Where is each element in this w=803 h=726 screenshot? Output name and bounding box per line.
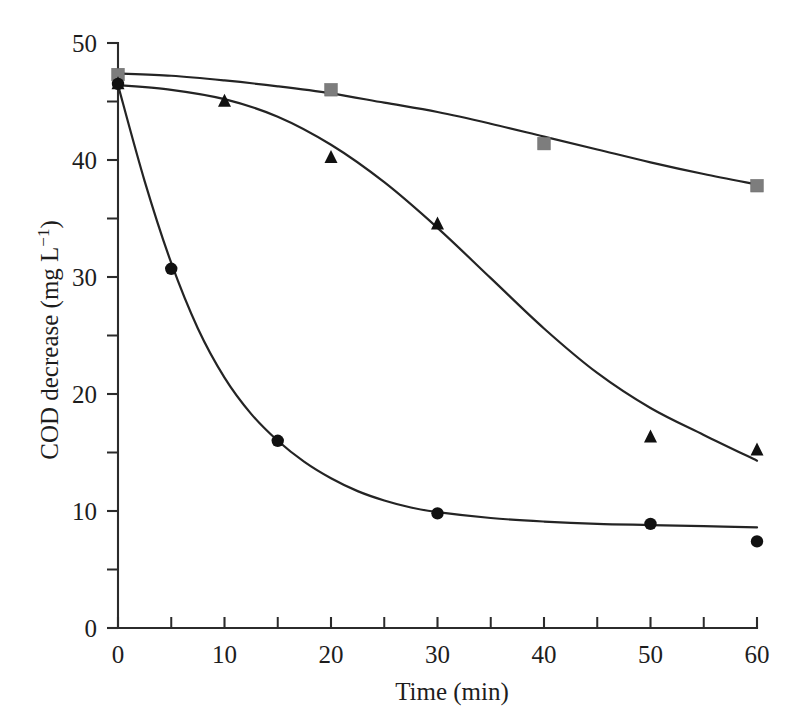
x-tick-label: 0 (112, 641, 125, 668)
y-tick-label: 30 (72, 264, 97, 291)
axis-tick-labels: 010203040506001020304050 (72, 30, 770, 668)
marker-series-circles (431, 507, 443, 519)
marker-series-circles (644, 518, 656, 530)
y-axis-title: COD decrease (mg L−1) (34, 220, 64, 460)
marker-series-squares (325, 84, 338, 97)
marker-series-circles (165, 263, 177, 275)
x-tick-label: 60 (745, 641, 770, 668)
curve-series-circles (118, 85, 757, 527)
y-tick-label: 10 (72, 498, 97, 525)
x-axis-title: Time (min) (395, 678, 509, 706)
y-axis-title-main: COD decrease (mg L (36, 247, 64, 460)
chart-plot: 010203040506001020304050 Time (min) COD … (0, 0, 803, 726)
marker-series-circles (112, 78, 124, 90)
y-tick-label: 20 (72, 381, 97, 408)
x-tick-label: 40 (532, 641, 557, 668)
marker-series-triangles (644, 430, 657, 443)
x-tick-label: 30 (425, 641, 450, 668)
marker-series-triangles (751, 442, 764, 455)
curve-series-triangles (118, 85, 757, 461)
marker-series-squares (751, 179, 764, 192)
y-tick-label: 50 (72, 30, 97, 57)
fit-curves (118, 73, 757, 527)
data-markers (112, 68, 764, 547)
marker-series-triangles (325, 150, 338, 163)
y-axis-title-close: ) (36, 220, 64, 228)
x-tick-label: 10 (212, 641, 237, 668)
x-tick-label: 50 (638, 641, 663, 668)
x-tick-label: 20 (319, 641, 344, 668)
chart-container: 010203040506001020304050 Time (min) COD … (0, 0, 803, 726)
axis-ticks (107, 43, 757, 628)
svg-text:COD decrease (mg L−1): COD decrease (mg L−1) (34, 220, 64, 460)
marker-series-squares (538, 137, 551, 150)
curve-series-squares (118, 73, 757, 184)
y-tick-label: 0 (85, 615, 98, 642)
marker-series-circles (751, 535, 763, 547)
axes (118, 43, 757, 628)
y-tick-label: 40 (72, 147, 97, 174)
y-axis-title-exponent: −1 (34, 229, 53, 247)
marker-series-circles (272, 435, 284, 447)
